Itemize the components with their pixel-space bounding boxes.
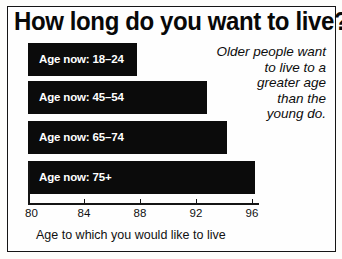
bar-label: Age now: 75+	[39, 161, 112, 194]
axis-line	[28, 203, 259, 205]
axis-tick-label: 84	[78, 207, 91, 219]
plot-area: Age now: 18–24Age now: 45–54Age now: 65–…	[28, 41, 263, 203]
axis-tick-label: 92	[190, 207, 203, 219]
x-axis-caption: Age to which you would like to live	[36, 228, 226, 242]
bar-label: Age now: 65–74	[39, 121, 124, 154]
axis-tick-label: 80	[25, 207, 38, 219]
axis-tick-mark	[196, 199, 197, 204]
axis-tick-mark	[252, 199, 253, 204]
page-title: How long do you want to live?	[14, 8, 316, 35]
axis-tick-label: 96	[246, 207, 259, 219]
axis-tick-mark	[84, 199, 85, 204]
axis-left-riser	[28, 162, 30, 204]
bar-label: Age now: 18–24	[39, 43, 124, 76]
axis-tick-label: 88	[134, 207, 147, 219]
chart-figure: How long do you want to live? Older peop…	[0, 0, 342, 259]
axis-tick-mark	[28, 199, 29, 204]
axis-tick-mark	[140, 199, 141, 204]
x-axis: 8084889296	[28, 203, 259, 204]
bar-label: Age now: 45–54	[39, 81, 124, 114]
